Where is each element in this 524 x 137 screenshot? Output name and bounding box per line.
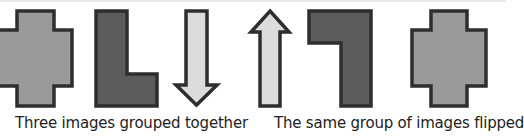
cross-shape-left (0, 11, 72, 106)
shapes-canvas (0, 0, 506, 112)
flipped-l-shape (309, 11, 371, 106)
caption-grouped: Three images grouped together (15, 114, 248, 132)
cross-shape-right (412, 11, 486, 106)
l-shape (96, 11, 157, 106)
up-arrow-shape (251, 11, 289, 106)
down-arrow-shape (176, 11, 217, 105)
caption-flipped: The same group of images flipped (274, 114, 524, 132)
